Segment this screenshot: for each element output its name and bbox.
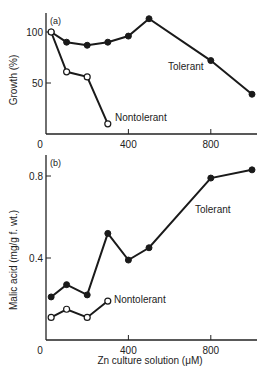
- panel-b-tolerant-line: [51, 170, 252, 297]
- panel-b-x-tick-label: 400: [120, 345, 137, 356]
- panel-a-growth-chart: (a) Growth (%) 040080050100 TolerantNont…: [8, 13, 257, 150]
- panel-b-nontolerant-legend-label: Nontolerant: [114, 294, 166, 305]
- panel-a-tolerant-point: [125, 33, 131, 39]
- panel-b-nontolerant-line: [51, 301, 108, 317]
- panel-b-tolerant-point: [146, 245, 152, 251]
- panel-b-tolerant-point: [105, 230, 111, 236]
- panel-b-tolerant-legend-label: Tolerant: [195, 204, 231, 215]
- panel-b-tolerant-point: [64, 282, 70, 288]
- panel-a-tolerant-line: [51, 19, 252, 94]
- panel-b-y-tick-label: 0.4: [29, 253, 43, 264]
- panel-b-x-axis-label: Zn culture solution (μM): [97, 355, 202, 366]
- panel-a-x-tick-label: 0: [37, 139, 43, 150]
- panel-a-nontolerant-point: [105, 121, 111, 127]
- panel-a-label: (a): [50, 16, 61, 26]
- panel-a-tolerant-point: [105, 39, 111, 45]
- panel-b-x-tick-label: 0: [37, 345, 43, 356]
- figure: (a) Growth (%) 040080050100 TolerantNont…: [0, 0, 267, 378]
- panel-b-nontolerant-point: [84, 314, 90, 320]
- panel-b-label: (b): [50, 158, 61, 168]
- panel-a-nontolerant-point: [64, 69, 70, 75]
- panel-a-nontolerant-line: [51, 32, 108, 124]
- panel-b-nontolerant-point: [64, 306, 70, 312]
- panel-b-y-tick-label: 0.8: [29, 171, 43, 182]
- panel-a-nontolerant-point: [48, 29, 54, 35]
- panel-a-tolerant-point: [64, 39, 70, 45]
- panel-a-nontolerant-legend-label: Nontolerant: [115, 112, 167, 123]
- panel-a-tolerant-point: [208, 58, 214, 64]
- panel-b-tolerant-point: [125, 257, 131, 263]
- panel-a-nontolerant-point: [84, 74, 90, 80]
- panel-b-y-axis-label: Malic acid (mg/g f. wt.): [8, 210, 19, 310]
- panel-b-malic-acid-chart: (b) Malic acid (mg/g f. wt.) Zn culture …: [8, 155, 257, 366]
- panel-a-tolerant-point: [249, 91, 255, 97]
- panel-a-y-tick-label: 100: [26, 27, 43, 38]
- panel-b-nontolerant-point: [48, 314, 54, 320]
- panel-a-y-axis-label: Growth (%): [8, 55, 19, 106]
- panel-a-x-tick-label: 400: [120, 139, 137, 150]
- panel-b-tolerant-point: [249, 167, 255, 173]
- panel-b-nontolerant-point: [105, 298, 111, 304]
- panel-b-tolerant-point: [48, 294, 54, 300]
- panel-a-tolerant-point: [84, 42, 90, 48]
- panel-a-tolerant-point: [146, 16, 152, 22]
- panel-b-tolerant-point: [208, 175, 214, 181]
- panel-b-x-tick-label: 800: [202, 345, 219, 356]
- panel-a-y-tick-label: 50: [32, 78, 44, 89]
- panel-a-x-tick-label: 800: [202, 139, 219, 150]
- panel-a-tolerant-legend-label: Tolerant: [168, 61, 204, 72]
- panel-b-tolerant-point: [84, 292, 90, 298]
